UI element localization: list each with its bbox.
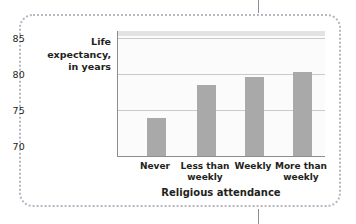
y-tick-label-70: 70	[0, 141, 25, 152]
bar-never[interactable]	[147, 118, 166, 156]
bar-chart: Life expectancy, in years 85 80 75 70 Ne…	[0, 0, 356, 224]
y-axis-title-line-2: expectancy,	[23, 49, 111, 62]
x-axis-title: Religious attendance	[117, 187, 325, 198]
y-tick-label-85: 85	[0, 33, 25, 44]
x-tick-label-more-than-weekly: More than weekly	[270, 161, 332, 183]
bar-more-than-weekly[interactable]	[293, 72, 312, 156]
y-tick-label-75: 75	[0, 105, 25, 116]
plot-area	[117, 31, 325, 157]
y-axis-title-line-1: Life	[23, 36, 111, 49]
y-axis-title: Life expectancy, in years	[23, 36, 111, 74]
y-axis-title-line-3: in years	[23, 61, 111, 74]
y-tick-label-80: 80	[0, 69, 25, 80]
bar-less-than-weekly[interactable]	[197, 85, 216, 156]
bar-weekly[interactable]	[245, 77, 264, 156]
callout-connector-bottom	[258, 209, 259, 224]
bar-series	[118, 31, 325, 156]
